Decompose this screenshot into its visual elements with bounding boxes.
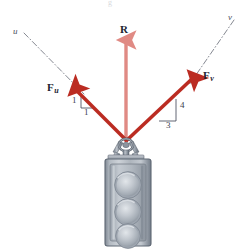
vector-force-u: [75, 89, 127, 141]
figure-canvas: [0, 0, 250, 250]
axis-v-line: [189, 20, 234, 85]
vector-force-v: [126, 77, 194, 141]
traffic-light-body: [105, 159, 151, 248]
eyebolt-hook-assembly: [108, 139, 144, 161]
mechanics-figure: g R Fu Fv u v 1 1 4 3: [0, 0, 250, 250]
bottom-lens: [116, 224, 141, 249]
top-lens: [115, 172, 142, 199]
middle-lens: [115, 199, 142, 226]
axis-u-line: [24, 33, 84, 94]
